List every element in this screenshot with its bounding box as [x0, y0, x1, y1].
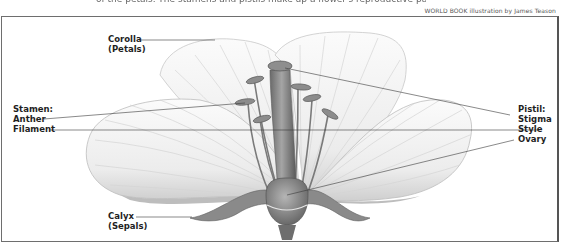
calyx-text: Calyx — [108, 211, 147, 221]
anther-text: Anther — [13, 114, 55, 124]
label-calyx: Calyx (Sepals) — [108, 211, 147, 231]
style-text: Style — [518, 124, 552, 134]
filament-text: Filament — [13, 124, 55, 134]
ovary-text: Ovary — [518, 134, 552, 144]
corolla-text: Corolla — [108, 34, 146, 44]
stamen-text: Stamen: — [13, 104, 55, 114]
stigma-text: Stigma — [518, 114, 552, 124]
calyx-subtext: (Sepals) — [108, 221, 147, 231]
label-corolla: Corolla (Petals) — [108, 34, 146, 54]
label-stamen: Stamen: Anther Filament — [13, 104, 55, 134]
flower-illustration — [0, 0, 564, 245]
pistil-text: Pistil: — [518, 104, 552, 114]
label-pistil: Pistil: Stigma Style Ovary — [518, 104, 552, 144]
corolla-subtext: (Petals) — [108, 44, 146, 54]
